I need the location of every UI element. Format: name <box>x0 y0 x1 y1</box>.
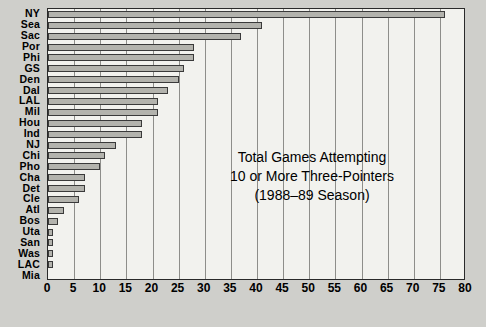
bar-series <box>48 9 464 279</box>
x-tick-40: 40 <box>249 281 262 295</box>
bar-LAC <box>48 261 53 268</box>
x-tick-10: 10 <box>93 281 106 295</box>
y-axis-category-labels: NYSeaSacPorPhiGSDenDalLALMilHouIndNJChiP… <box>0 8 44 280</box>
bar-GS <box>48 65 184 72</box>
bar-NJ <box>48 142 116 149</box>
bar-Det <box>48 185 85 192</box>
bar-Dal <box>48 87 168 94</box>
y-label-Mia: Mia <box>22 270 40 280</box>
bar-Atl <box>48 207 64 214</box>
y-label-Uta: Uta <box>22 226 40 236</box>
bar-Cle <box>48 196 79 203</box>
bar-Sea <box>48 22 262 29</box>
bar-Mil <box>48 109 158 116</box>
x-tick-45: 45 <box>275 281 288 295</box>
y-label-San: San <box>20 237 40 247</box>
bar-chart: NYSeaSacPorPhiGSDenDalLALMilHouIndNJChiP… <box>0 0 486 327</box>
y-label-Chi: Chi <box>22 150 40 160</box>
y-label-Dal: Dal <box>23 85 40 95</box>
x-tick-70: 70 <box>406 281 419 295</box>
y-label-Atl: Atl <box>25 204 40 214</box>
bar-Phi <box>48 54 194 61</box>
x-tick-20: 20 <box>145 281 158 295</box>
x-tick-5: 5 <box>70 281 77 295</box>
y-label-GS: GS <box>24 63 40 73</box>
y-label-Den: Den <box>20 74 40 84</box>
bar-Chi <box>48 152 105 159</box>
y-label-Por: Por <box>22 41 40 51</box>
bar-Sac <box>48 33 241 40</box>
bar-Uta <box>48 229 53 236</box>
bar-Den <box>48 76 179 83</box>
y-label-Cle: Cle <box>23 193 40 203</box>
y-label-Cha: Cha <box>20 172 40 182</box>
x-tick-50: 50 <box>302 281 315 295</box>
y-label-Ind: Ind <box>24 128 40 138</box>
x-tick-65: 65 <box>380 281 393 295</box>
x-tick-0: 0 <box>44 281 51 295</box>
y-label-Sac: Sac <box>21 30 40 40</box>
x-tick-60: 60 <box>354 281 367 295</box>
bar-Hou <box>48 120 142 127</box>
x-tick-25: 25 <box>171 281 184 295</box>
y-label-Phi: Phi <box>23 52 40 62</box>
bar-Pho <box>48 163 100 170</box>
x-tick-35: 35 <box>223 281 236 295</box>
y-label-LAL: LAL <box>19 95 40 105</box>
y-label-Was: Was <box>18 248 40 258</box>
bar-Por <box>48 44 194 51</box>
y-label-Hou: Hou <box>19 117 40 127</box>
x-tick-80: 80 <box>458 281 471 295</box>
y-label-Sea: Sea <box>21 19 40 29</box>
bar-Cha <box>48 174 85 181</box>
y-label-Mil: Mil <box>25 106 40 116</box>
plot-area <box>47 8 465 280</box>
bar-Ind <box>48 131 142 138</box>
bar-NY <box>48 11 445 18</box>
x-tick-75: 75 <box>432 281 445 295</box>
y-label-Pho: Pho <box>20 161 40 171</box>
x-axis-tick-labels: 05101520253035404550556065707580 <box>0 281 486 301</box>
bar-Bos <box>48 218 58 225</box>
y-label-NY: NY <box>25 8 40 18</box>
x-tick-15: 15 <box>119 281 132 295</box>
bar-LAL <box>48 98 158 105</box>
x-tick-30: 30 <box>197 281 210 295</box>
bar-San <box>48 239 53 246</box>
y-label-LAC: LAC <box>18 259 40 269</box>
bar-Was <box>48 250 53 257</box>
y-label-Det: Det <box>22 183 40 193</box>
x-tick-55: 55 <box>328 281 341 295</box>
y-label-Bos: Bos <box>20 215 40 225</box>
y-label-NJ: NJ <box>26 139 40 149</box>
